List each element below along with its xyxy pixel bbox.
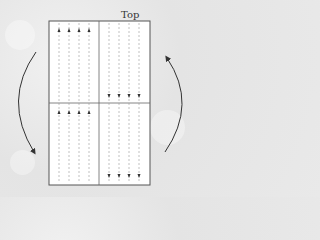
- right-rotation-arrow-icon: [165, 58, 182, 152]
- top-label: Top: [121, 9, 139, 20]
- page-rotation-diagram: [0, 0, 192, 197]
- left-rotation-arrow-icon: [18, 52, 36, 152]
